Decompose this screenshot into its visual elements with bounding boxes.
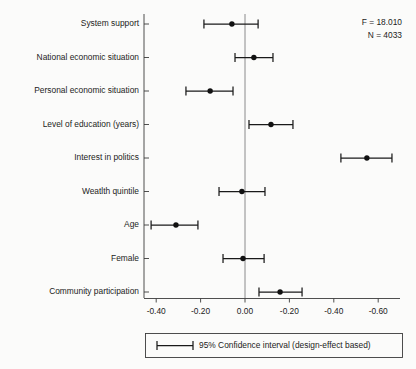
legend-label: 95% Confidence interval (design-effect b… <box>199 340 371 350</box>
data-point-row <box>219 187 265 196</box>
point-estimate-marker <box>277 289 282 294</box>
category-label: System support <box>81 18 140 28</box>
category-label: Age <box>124 219 139 229</box>
category-label: Community participation <box>49 286 139 296</box>
point-estimate-marker <box>207 88 212 93</box>
category-label: Female <box>111 253 139 263</box>
category-axis-labels: System supportNational economic situatio… <box>34 18 149 296</box>
point-estimate-marker <box>239 189 244 194</box>
forest-plot-chart: System supportNational economic situatio… <box>0 0 416 369</box>
category-label: Personal economic situation <box>34 85 139 95</box>
category-label: Level of education (years) <box>43 119 140 129</box>
f-statistic-annotation: F = 18.010 <box>362 17 403 27</box>
sample-size-annotation: N = 4033 <box>368 30 403 40</box>
x-tick-label: 0.00 <box>237 306 254 316</box>
chart-canvas: System supportNational economic situatio… <box>0 0 416 369</box>
point-estimate-marker <box>173 222 178 227</box>
x-tick-label: -0.20 <box>280 306 299 316</box>
point-estimate-marker <box>364 155 369 160</box>
legend-errorbar-icon <box>157 341 193 350</box>
point-estimate-marker <box>229 21 234 26</box>
x-tick-label: -0.40 <box>147 306 166 316</box>
x-axis: -0.40-0.200.00-0.20-0.40-0.60 <box>144 299 400 316</box>
data-point-row <box>259 288 302 297</box>
data-point-row <box>223 254 264 263</box>
category-label: National economic situation <box>37 52 140 62</box>
data-point-row <box>186 87 233 96</box>
data-series <box>151 20 392 297</box>
category-label: Interest in politics <box>74 152 139 162</box>
data-point-row <box>235 53 273 62</box>
point-estimate-marker <box>240 256 245 261</box>
x-tick-label: -0.40 <box>324 306 343 316</box>
data-point-row <box>249 120 293 129</box>
point-estimate-marker <box>251 55 256 60</box>
data-point-row <box>341 154 392 163</box>
point-estimate-marker <box>268 122 273 127</box>
data-point-row <box>151 221 198 230</box>
category-label: Weatlth quintile <box>82 186 139 196</box>
data-point-row <box>204 20 258 29</box>
legend: 95% Confidence interval (design-effect b… <box>146 334 403 358</box>
x-tick-label: -0.60 <box>369 306 388 316</box>
x-tick-label: -0.20 <box>191 306 210 316</box>
